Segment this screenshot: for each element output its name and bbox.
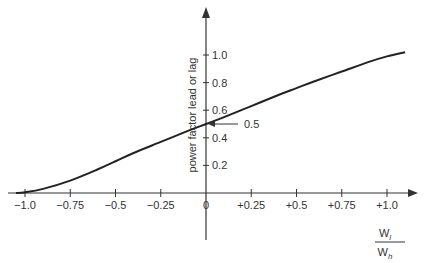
x-axis: −1.0−0.75−0.5−0.250+0.25+0.5+0.75+1.0 bbox=[8, 189, 418, 211]
svg-text:0.5: 0.5 bbox=[244, 118, 259, 130]
x-axis-arrow-icon bbox=[408, 189, 418, 197]
svg-text:Wl: Wl bbox=[379, 227, 391, 242]
x-tick-label: −0.25 bbox=[147, 199, 175, 211]
y-tick-label: 0.2 bbox=[212, 159, 227, 171]
y-tick-label: 0.6 bbox=[212, 104, 227, 116]
power-factor-chart: −1.0−0.75−0.5−0.250+0.25+0.5+0.75+1.0 0.… bbox=[0, 0, 433, 263]
x-tick-label: +0.25 bbox=[237, 199, 265, 211]
x-tick-label: −0.75 bbox=[56, 199, 84, 211]
power-factor-curve bbox=[16, 52, 405, 193]
y-axis-arrow-icon bbox=[202, 7, 210, 18]
y-tick-label: 0.8 bbox=[212, 77, 227, 89]
svg-text:Wh: Wh bbox=[378, 246, 393, 261]
y-tick-label: 1.0 bbox=[212, 49, 227, 61]
x-tick-label: −1.0 bbox=[14, 199, 36, 211]
y-tick-label: 0.4 bbox=[212, 132, 227, 144]
x-tick-label: +1.0 bbox=[376, 199, 398, 211]
x-tick-label: −0.5 bbox=[105, 199, 127, 211]
x-axis-label: Wl Wh bbox=[375, 227, 405, 261]
y-axis-label: power factor lead or lag bbox=[186, 58, 198, 173]
x-tick-label: +0.5 bbox=[286, 199, 308, 211]
x-tick-label: +0.75 bbox=[328, 199, 356, 211]
